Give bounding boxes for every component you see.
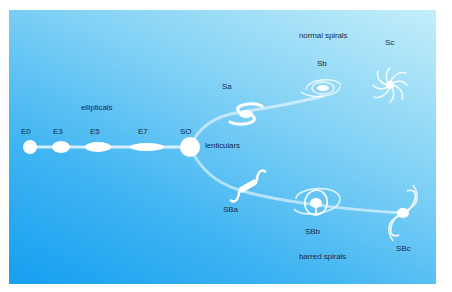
e3-galaxy bbox=[52, 141, 70, 153]
sa-label: Sa bbox=[222, 83, 232, 91]
sbc-label: SBc bbox=[396, 245, 410, 253]
sba-label: SBa bbox=[223, 206, 238, 214]
normal-spirals-label: normal spirals bbox=[299, 32, 347, 40]
sb-label: Sb bbox=[317, 60, 327, 68]
s0-galaxy bbox=[180, 137, 200, 157]
sc-label: Sc bbox=[385, 39, 394, 47]
barred-spiral-prong bbox=[190, 147, 404, 213]
e5-label: E5 bbox=[90, 128, 100, 136]
e5-galaxy bbox=[85, 142, 111, 152]
tuning-fork-diagram: ellipticals E0 E3 E5 E7 SO lenticulars n… bbox=[9, 10, 436, 284]
s0-label: SO bbox=[180, 128, 191, 136]
sbb-label: SBb bbox=[305, 228, 320, 236]
e7-galaxy bbox=[130, 143, 164, 151]
sb-galaxy bbox=[301, 80, 341, 97]
e3-label: E3 bbox=[53, 128, 63, 136]
e0-galaxy bbox=[23, 140, 37, 154]
barred-spirals-label: barred spirals bbox=[299, 253, 346, 261]
sc-galaxy bbox=[373, 68, 407, 102]
ellipticals-label: ellipticals bbox=[81, 104, 112, 112]
e0-label: E0 bbox=[21, 128, 31, 136]
e7-label: E7 bbox=[138, 128, 148, 136]
lenticulars-label: lenticulars bbox=[205, 142, 240, 150]
